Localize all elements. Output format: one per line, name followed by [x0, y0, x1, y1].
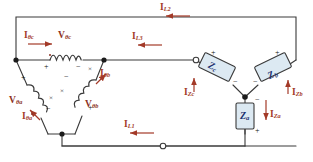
- coil-bc: [50, 55, 81, 60]
- wire-zb-outer: [290, 60, 296, 64]
- wire-source-left-lower: [41, 118, 48, 134]
- polarity-zc-plus: +: [211, 49, 216, 57]
- polarity-zb-plus: +: [275, 49, 280, 57]
- x-mark-ba: ×: [49, 95, 53, 102]
- x-mark-bc: ×: [88, 66, 92, 73]
- polarity-bc-plus: +: [44, 63, 49, 71]
- label-i-zc: IZc: [184, 88, 194, 98]
- wire-source-right-lower: [75, 116, 82, 134]
- node-source-top-right: [101, 57, 106, 62]
- dot-mark-ba: [31, 113, 33, 115]
- dot-mark-bc: [49, 54, 51, 56]
- node-terminal-l1: [160, 143, 166, 149]
- x-mark-bb: ×: [60, 88, 64, 95]
- label-i-l3: IL3: [132, 32, 143, 42]
- polarity-bb-plus: +: [88, 104, 93, 112]
- label-i-theta-c: Iθc: [24, 31, 34, 41]
- polarity-ba-plus: +: [21, 74, 26, 82]
- label-i-za: IZa: [270, 110, 281, 120]
- label-i-zb: IZb: [292, 88, 303, 98]
- label-v-theta-c: Vθc: [58, 31, 71, 41]
- polarity-zb-minus: −: [253, 78, 258, 86]
- label-i-theta-b: Iθb: [100, 69, 110, 79]
- polarity-ba-minus: −: [46, 105, 51, 113]
- label-i-l2: IL2: [160, 3, 171, 13]
- label-i-l1: IL1: [124, 120, 135, 130]
- wire-line-L1-left: [62, 134, 296, 146]
- polarity-za-minus: −: [255, 96, 260, 104]
- label-za: Za: [240, 111, 249, 122]
- polarity-za-plus: +: [255, 127, 260, 135]
- polarity-bb-minus: −: [64, 73, 69, 81]
- circuit-diagram-canvas: Iθc Iθb Iθa Vθc Vθa Vθb IL2 IL3 IL1 IZc …: [0, 0, 313, 162]
- node-source-bottom: [59, 131, 64, 136]
- node-terminal-l3: [193, 57, 199, 63]
- label-v-theta-a: Vθa: [9, 96, 22, 106]
- circuit-schematic: [0, 0, 313, 162]
- node-load-neutral: [242, 94, 248, 100]
- polarity-zc-minus: −: [233, 78, 238, 86]
- node-source-b: [13, 57, 18, 62]
- polarity-bc-minus: −: [76, 63, 81, 71]
